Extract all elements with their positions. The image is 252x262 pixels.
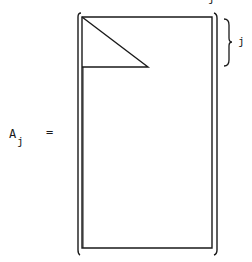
curly-brace [224, 19, 232, 66]
lhs-symbol: A [9, 128, 16, 140]
right-bracket [214, 13, 217, 255]
left-bracket [78, 13, 81, 255]
triangular-block [82, 17, 148, 67]
lhs-subscript: j [17, 136, 24, 147]
matrix-drawing [0, 0, 252, 262]
brace-label: j [238, 36, 245, 47]
top-label: j [208, 0, 215, 4]
equals-sign: = [46, 126, 53, 138]
matrix-outline [82, 17, 212, 248]
diagram-canvas: A j = j j [0, 0, 252, 262]
